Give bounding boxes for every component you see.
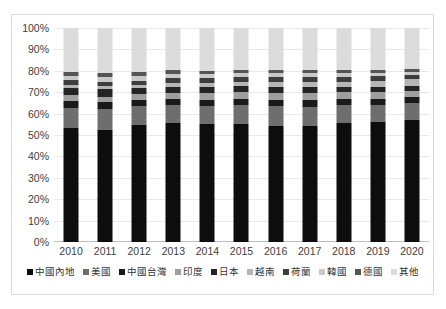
y-axis-tick-label: 90% <box>9 44 49 54</box>
bar-segment[interactable] <box>234 28 249 70</box>
bar-segment[interactable] <box>64 28 79 72</box>
stacked-bar[interactable] <box>404 28 419 242</box>
bar-segment[interactable] <box>166 28 181 70</box>
plot-area <box>54 28 429 242</box>
legend-swatch-icon <box>211 269 217 275</box>
bar-segment[interactable] <box>98 102 113 109</box>
stacked-bar[interactable] <box>302 28 317 242</box>
legend-label: 韓國 <box>327 267 347 277</box>
x-axis-tick-label: 2013 <box>156 244 190 258</box>
bar-segment[interactable] <box>234 105 249 124</box>
bar-segment[interactable] <box>166 105 181 123</box>
bar-segment[interactable] <box>370 28 385 70</box>
y-axis-tick-label: 70% <box>9 87 49 97</box>
legend-swatch-icon <box>247 269 253 275</box>
bar-segment[interactable] <box>132 28 147 72</box>
bar-segment[interactable] <box>200 106 215 124</box>
bar-segment[interactable] <box>98 130 113 242</box>
bar-segment[interactable] <box>370 105 385 122</box>
bar-segment[interactable] <box>234 124 249 242</box>
stacked-bar[interactable] <box>370 28 385 242</box>
legend-swatch-icon <box>119 269 125 275</box>
bar-slot <box>122 28 156 242</box>
stacked-bar[interactable] <box>98 28 113 242</box>
legend-item[interactable]: 越南 <box>247 267 275 277</box>
x-axis-tick-label: 2014 <box>190 244 224 258</box>
legend-label: 其他 <box>399 267 419 277</box>
chart-legend: 中國內地美國中國台灣印度日本越南荷蘭韓國德國其他 <box>12 267 433 277</box>
y-axis-tick-label: 40% <box>9 151 49 161</box>
y-axis-tick-label: 60% <box>9 109 49 119</box>
x-axis-tick-label: 2020 <box>395 244 429 258</box>
legend-swatch-icon <box>175 269 181 275</box>
bar-segment[interactable] <box>404 120 419 242</box>
legend-swatch-icon <box>283 269 289 275</box>
x-axis-tick-label: 2019 <box>361 244 395 258</box>
legend-label: 美國 <box>91 267 111 277</box>
legend-item[interactable]: 荷蘭 <box>283 267 311 277</box>
bar-segment[interactable] <box>302 107 317 126</box>
bar-segment[interactable] <box>64 101 79 108</box>
bar-segment[interactable] <box>64 88 79 95</box>
legend-item[interactable]: 印度 <box>175 267 203 277</box>
stacked-bar[interactable] <box>268 28 283 242</box>
legend-item[interactable]: 中國台灣 <box>119 267 167 277</box>
bar-segment[interactable] <box>268 28 283 70</box>
stacked-bar[interactable] <box>336 28 351 242</box>
bar-segment[interactable] <box>98 109 113 129</box>
bar-segment[interactable] <box>302 28 317 70</box>
bar-segment[interactable] <box>64 108 79 127</box>
stacked-bar[interactable] <box>64 28 79 242</box>
legend-item[interactable]: 韓國 <box>319 267 347 277</box>
x-axis-tick-label: 2015 <box>224 244 258 258</box>
chart-frame: 100%90%80%70%60%50%40%30%20%10%0% 201020… <box>11 14 434 295</box>
bar-segment[interactable] <box>268 126 283 242</box>
bar-segment[interactable] <box>64 128 79 242</box>
stacked-bar[interactable] <box>132 28 147 242</box>
bar-segment[interactable] <box>302 100 317 107</box>
legend-item[interactable]: 德國 <box>355 267 383 277</box>
stacked-bar[interactable] <box>234 28 249 242</box>
legend-swatch-icon <box>27 269 33 275</box>
bar-segment[interactable] <box>166 123 181 242</box>
bar-segment[interactable] <box>200 28 215 71</box>
bar-segment[interactable] <box>336 123 351 242</box>
y-axis-tick-label: 0% <box>9 237 49 247</box>
x-axis-tick-label: 2016 <box>259 244 293 258</box>
y-axis-tick-label: 50% <box>9 130 49 140</box>
legend-item[interactable]: 其他 <box>391 267 419 277</box>
bar-slot <box>259 28 293 242</box>
legend-label: 中國台灣 <box>127 267 167 277</box>
bar-segment[interactable] <box>200 124 215 242</box>
y-axis-tick-label: 10% <box>9 216 49 226</box>
legend-label: 中國內地 <box>35 267 75 277</box>
bar-segment[interactable] <box>336 28 351 70</box>
x-axis-tick-label: 2011 <box>88 244 122 258</box>
bar-segment[interactable] <box>132 125 147 242</box>
legend-label: 德國 <box>363 267 383 277</box>
bar-segment[interactable] <box>370 122 385 242</box>
y-axis: 100%90%80%70%60%50%40%30%20%10%0% <box>12 28 52 242</box>
bar-slot <box>156 28 190 242</box>
bar-segment[interactable] <box>336 105 351 123</box>
legend-item[interactable]: 中國內地 <box>27 267 75 277</box>
legend-label: 荷蘭 <box>291 267 311 277</box>
y-axis-tick-label: 80% <box>9 66 49 76</box>
bar-slot <box>54 28 88 242</box>
bar-segment[interactable] <box>98 89 113 96</box>
bar-segment[interactable] <box>404 28 419 69</box>
stacked-bar[interactable] <box>200 28 215 242</box>
bar-segment[interactable] <box>98 28 113 73</box>
bar-segment[interactable] <box>132 106 147 125</box>
bar-segment[interactable] <box>302 126 317 242</box>
legend-item[interactable]: 日本 <box>211 267 239 277</box>
legend-swatch-icon <box>355 269 361 275</box>
bar-slot <box>293 28 327 242</box>
bar-segment[interactable] <box>404 103 419 120</box>
legend-label: 印度 <box>183 267 203 277</box>
stacked-bar[interactable] <box>166 28 181 242</box>
chart-plot-wrapper: 100%90%80%70%60%50%40%30%20%10%0% 201020… <box>12 15 433 294</box>
bar-segment[interactable] <box>268 106 283 126</box>
legend-item[interactable]: 美國 <box>83 267 111 277</box>
bar-slot <box>395 28 429 242</box>
